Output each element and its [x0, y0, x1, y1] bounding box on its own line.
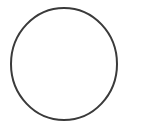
circle-shape-layer — [0, 0, 141, 127]
drawing-canvas — [0, 0, 141, 127]
canvas-background — [0, 0, 141, 127]
